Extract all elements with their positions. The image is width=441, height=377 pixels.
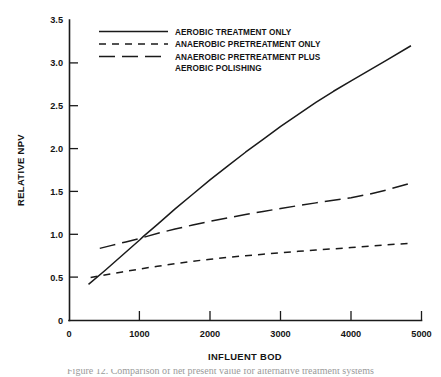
y-tick-marks xyxy=(69,63,78,277)
y-tick-label-1.5: 1.5 xyxy=(50,187,63,197)
y-tick-label-0.5: 0.5 xyxy=(50,273,63,283)
x-tick-label-1000: 1000 xyxy=(129,329,149,339)
figure-container: 0 0.5 1.0 1.5 2.0 2.5 3.0 3.5 0 1000 200… xyxy=(0,0,441,377)
y-tick-label-3.0: 3.0 xyxy=(50,58,63,68)
legend-label-2: ANAEROBIC PRETREATMENT PLUS xyxy=(175,53,321,62)
y-tick-label-3.5: 3.5 xyxy=(50,15,63,25)
y-tick-labels: 0 0.5 1.0 1.5 2.0 2.5 3.0 3.5 xyxy=(50,15,63,325)
legend-label-1: ANAEROBIC PRETREATMENT ONLY xyxy=(175,40,321,49)
x-tick-label-4000: 4000 xyxy=(341,329,361,339)
legend-label-3: AEROBIC POLISHING xyxy=(175,64,262,73)
chart-canvas: 0 0.5 1.0 1.5 2.0 2.5 3.0 3.5 0 1000 200… xyxy=(0,0,441,377)
y-tick-label-0: 0 xyxy=(58,316,63,326)
series-line-anaerobic-pretreatment-only xyxy=(91,243,411,277)
x-tick-label-0: 0 xyxy=(66,329,71,339)
y-tick-label-2.5: 2.5 xyxy=(50,101,63,111)
x-tick-marks xyxy=(139,311,421,321)
x-tick-labels: 0 1000 2000 3000 4000 5000 xyxy=(66,329,431,339)
series-group xyxy=(89,46,411,285)
x-tick-label-5000: 5000 xyxy=(411,329,431,339)
x-tick-label-2000: 2000 xyxy=(200,329,220,339)
y-tick-label-1.0: 1.0 xyxy=(50,230,63,240)
figure-caption-text: Figure 12. Comparison of net present val… xyxy=(0,369,441,376)
legend-label-0: AEROBIC TREATMENT ONLY xyxy=(175,28,292,37)
series-line-aerobic-treatment-only xyxy=(89,46,411,285)
x-tick-label-3000: 3000 xyxy=(270,329,290,339)
figure-caption-strip: Figure 12. Comparison of net present val… xyxy=(0,369,441,377)
y-tick-label-2.0: 2.0 xyxy=(50,144,63,154)
y-axis-title: RELATIVE NPV xyxy=(15,134,26,206)
x-axis-title: INFLUENT BOD xyxy=(208,351,282,362)
legend: AEROBIC TREATMENT ONLY ANAEROBIC PRETREA… xyxy=(99,28,321,74)
series-line-anaerobic-pretreatment-plus-aerobic-polishing xyxy=(100,183,411,248)
